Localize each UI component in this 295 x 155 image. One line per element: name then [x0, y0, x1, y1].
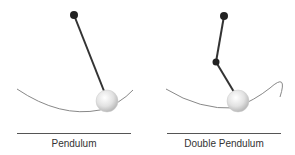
lower-rod — [216, 62, 234, 92]
pendulum-diagrams — [0, 0, 295, 155]
double-pendulum-bob — [227, 90, 249, 112]
upper-rod — [216, 16, 224, 62]
double-pendulum-trajectory — [166, 82, 282, 108]
double-pendulum — [166, 12, 282, 112]
pendulum-bob — [96, 90, 118, 112]
middle-joint — [213, 59, 220, 66]
single-pendulum — [17, 11, 133, 112]
double-pendulum-caption: Double Pendulum — [167, 138, 281, 149]
pendulum-rod — [74, 15, 104, 91]
double-pendulum-caption-rule — [167, 133, 281, 134]
pendulum-pivot — [70, 11, 78, 19]
double-pendulum-pivot — [220, 12, 228, 20]
pendulum-caption: Pendulum — [17, 138, 131, 149]
pendulum-caption-rule — [17, 133, 131, 134]
